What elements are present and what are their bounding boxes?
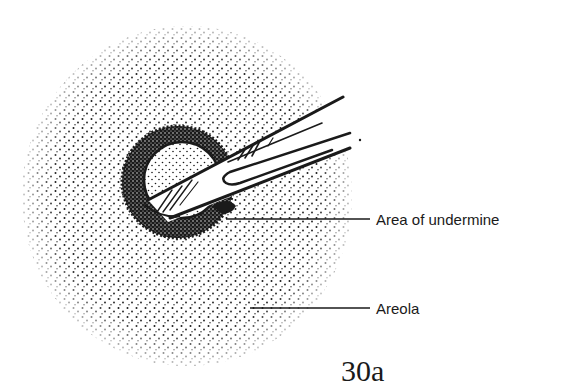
areola-undermining-diagram xyxy=(0,0,569,392)
figure-number: 30a xyxy=(341,356,384,386)
label-area-of-undermine: Area of undermine xyxy=(376,212,499,227)
label-areola: Areola xyxy=(376,301,419,316)
